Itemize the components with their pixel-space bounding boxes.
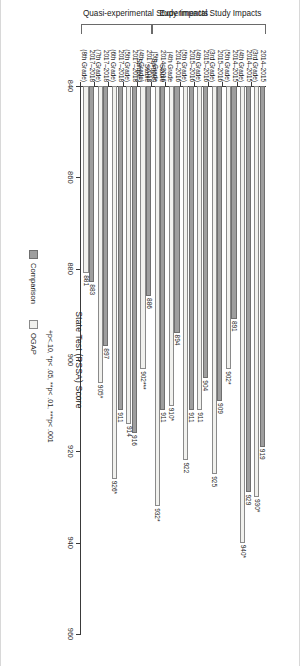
bar-comparison-6[interactable] <box>174 86 179 333</box>
bar-ogap-3[interactable] <box>212 86 217 474</box>
category-label-0: 2014–2015 (3rd Grade) <box>251 30 267 82</box>
bar-value-label: 925 <box>211 476 218 487</box>
category-label-8: 2017–2018 (4th Grade) <box>137 30 153 82</box>
bar-comparison-0[interactable] <box>260 86 265 447</box>
bar-comparison-10[interactable] <box>118 86 123 410</box>
bar-ogap-2[interactable] <box>226 86 231 369</box>
bar-comparison-8[interactable] <box>146 86 151 296</box>
bar-comparison-1[interactable] <box>246 86 251 492</box>
bar-value-label: 911 <box>117 412 124 422</box>
category-label-2: 2014–2015 (5th Grade) <box>223 30 239 82</box>
bar-value-label: 940* <box>239 545 246 558</box>
bar-value-label: 929 <box>245 494 252 505</box>
category-tick <box>137 82 138 86</box>
bar-value-label: 910* <box>168 408 175 421</box>
legend-swatch-comparison-icon <box>29 250 38 259</box>
bar-value-label: 886 <box>145 298 152 309</box>
bar-ogap-12[interactable] <box>83 86 88 273</box>
legend-item-ogap[interactable]: OGAP <box>29 320 38 355</box>
category-label-12: 2017–2018 (8th Grade) <box>80 30 96 82</box>
category-label-10: 2017–2018 (6th Grade) <box>109 30 125 82</box>
bar-ogap-1[interactable] <box>240 86 245 543</box>
bar-ogap-8[interactable] <box>140 86 145 369</box>
category-tick <box>251 82 252 86</box>
bar-ogap-10[interactable] <box>112 86 117 479</box>
bar-ogap-7[interactable] <box>155 86 160 506</box>
bar-comparison-5[interactable] <box>189 86 194 410</box>
value-axis-title: State Test (PSSA) Score <box>74 86 84 634</box>
bar-value-label: 911 <box>188 412 195 422</box>
category-tick <box>222 82 223 86</box>
rotated-figure-wrapper: Experimental Study ImpactsQuasi-experime… <box>0 0 300 666</box>
bar-comparison-11[interactable] <box>103 86 108 346</box>
bar-value-label: 932* <box>154 508 161 521</box>
bar-value-label: 911 <box>196 412 203 422</box>
category-label-11: 2017–2018 (7th Grade) <box>94 30 110 82</box>
category-tick <box>123 82 124 86</box>
group-header-1: Quasi-experimental Study Impacts <box>83 10 154 19</box>
bar-comparison-9[interactable] <box>132 86 137 433</box>
page-edge-bottom <box>0 0 1 666</box>
bar-value-label: 891 <box>230 321 237 332</box>
bar-value-label: 894 <box>174 335 181 346</box>
chart-legend: Comparison OGAP <box>29 250 38 355</box>
bar-ogap-11[interactable] <box>98 86 103 383</box>
category-label-1: 2014–2015 (4th Grade) <box>237 30 253 82</box>
category-tick <box>237 82 238 86</box>
bar-comparison-12[interactable] <box>89 86 94 282</box>
bar-ogap-6[interactable] <box>169 86 174 406</box>
bar-comparison-3[interactable] <box>217 86 222 401</box>
bar-value-label: 902* <box>225 371 232 384</box>
category-tick <box>208 82 209 86</box>
bar-value-label: 904 <box>202 380 209 391</box>
category-label-5: 2015–2016 (5th Grade) <box>180 30 196 82</box>
category-label-3: 2015–2016 (3rd Grade) <box>208 30 224 82</box>
bar-comparison-4[interactable] <box>203 86 208 378</box>
page-edge-top <box>299 0 300 666</box>
bar-value-label: 909 <box>216 403 223 414</box>
category-label-9: 2017–2018 (5th Grade) <box>123 30 139 82</box>
bar-comparison-7[interactable] <box>160 86 165 410</box>
category-tick <box>194 82 195 86</box>
category-tick <box>94 82 95 86</box>
bar-ogap-4[interactable] <box>197 86 202 410</box>
bar-value-label: 905* <box>97 385 104 398</box>
bar-value-label: 930* <box>253 499 260 512</box>
bar-value-label: 897 <box>102 348 109 359</box>
bar-value-label: 911 <box>159 412 166 422</box>
category-label-4: 2015–2016 (4th Grade) <box>194 30 210 82</box>
bar-value-label: 902*** <box>139 371 146 389</box>
bar-ogap-5[interactable] <box>183 86 188 460</box>
bar-value-label: 926* <box>111 481 118 494</box>
bar-value-label: 914 <box>125 426 132 437</box>
bar-comparison-2[interactable] <box>231 86 236 319</box>
plot-area: 840860880900920940960 919930*929940*8919… <box>81 86 266 634</box>
significance-footnote: +p<.10, *p< .05, **p< .01, ***p< .001 <box>47 330 54 443</box>
category-tick <box>165 82 166 86</box>
chart-figure: Experimental Study ImpactsQuasi-experime… <box>0 0 300 666</box>
category-tick <box>151 82 152 86</box>
category-tick <box>108 82 109 86</box>
legend-label-ogap: OGAP <box>29 333 38 355</box>
legend-swatch-ogap-icon <box>29 320 38 329</box>
bar-ogap-0[interactable] <box>254 86 259 497</box>
bar-value-label: 919 <box>259 449 266 460</box>
bar-value-label: 922 <box>182 462 189 473</box>
legend-label-comparison: Comparison <box>29 263 38 304</box>
legend-item-comparison[interactable]: Comparison <box>29 250 38 304</box>
bar-ogap-9[interactable] <box>126 86 131 424</box>
value-tick <box>76 634 81 635</box>
category-tick <box>180 82 181 86</box>
